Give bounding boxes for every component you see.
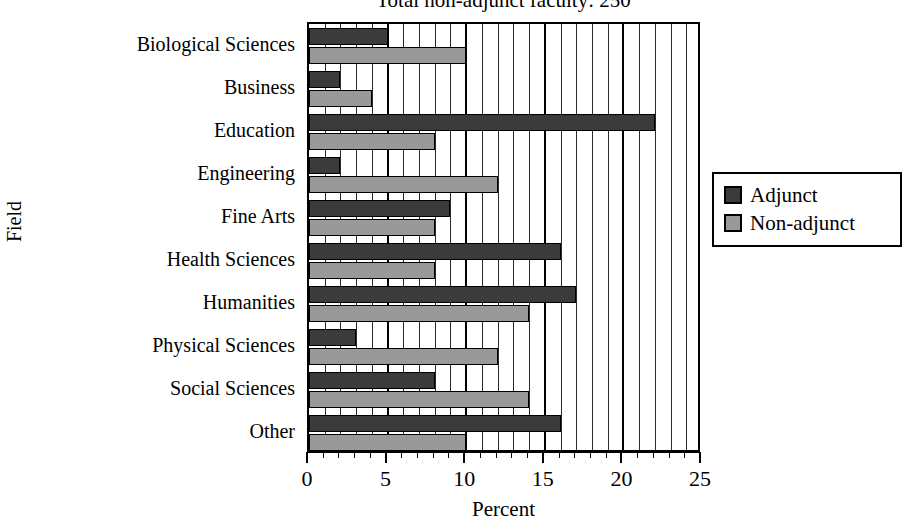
bar-non-adjunct-social-sciences [309,391,529,408]
bar-group [309,24,698,67]
y-tick-label-engineering: Engineering [10,163,295,183]
y-tick-label-other: Other [10,421,295,441]
bar-adjunct-engineering [309,157,340,174]
x-tick [684,452,685,458]
bar-adjunct-fine-arts [309,200,450,217]
x-tick [401,452,402,458]
x-tick [385,452,387,463]
x-tick-label-0: 0 [277,466,337,492]
x-tick [574,452,575,458]
bar-non-adjunct-biological-sciences [309,47,466,64]
legend-label: Non-adjunct [750,212,855,234]
y-tick-label-health-sciences: Health Sciences [10,249,295,269]
legend-item-non-adjunct[interactable]: Non-adjunct [724,209,892,237]
x-tick [542,452,544,463]
y-tick-label-biological-sciences: Biological Sciences [10,34,295,54]
x-tick [370,452,371,458]
x-axis-title: Percent [307,496,700,522]
y-tick-label-business: Business [10,77,295,97]
x-tick [480,452,481,458]
bar-group [309,239,698,282]
x-tick [559,452,560,458]
bar-non-adjunct-physical-sciences [309,348,498,365]
bar-group [309,110,698,153]
x-tick [448,452,449,458]
bar-adjunct-other [309,415,561,432]
x-tick [606,452,607,458]
x-tick-label-20: 20 [591,466,651,492]
x-tick-label-25: 25 [670,466,730,492]
legend-swatch-icon [724,214,742,232]
bar-group [309,325,698,368]
bar-non-adjunct-engineering [309,176,498,193]
x-tick [527,452,528,458]
y-tick-label-physical-sciences: Physical Sciences [10,335,295,355]
x-tick [637,452,638,458]
x-axis-tick-labels: 0510152025 [307,466,700,494]
bar-non-adjunct-humanities [309,305,529,322]
x-tick-label-5: 5 [356,466,416,492]
x-tick [354,452,355,458]
bar-group [309,368,698,411]
plot-area [307,22,700,452]
bar-group [309,282,698,325]
bar-group [309,196,698,239]
x-tick [653,452,654,458]
x-tick [433,452,434,458]
x-tick [511,452,512,458]
chart-title: Total non-adjunct faculty: 250 [307,0,700,13]
legend-swatch-icon [724,186,742,204]
x-tick [463,452,465,463]
bar-adjunct-health-sciences [309,243,561,260]
bar-non-adjunct-health-sciences [309,262,435,279]
bar-adjunct-social-sciences [309,372,435,389]
legend-item-adjunct[interactable]: Adjunct [724,181,892,209]
bar-group [309,153,698,196]
bar-non-adjunct-fine-arts [309,219,435,236]
y-tick-label-fine-arts: Fine Arts [10,206,295,226]
y-tick-label-humanities: Humanities [10,292,295,312]
legend-label: Adjunct [750,184,818,206]
x-tick [338,452,339,458]
x-tick [590,452,591,458]
x-tick [699,452,701,463]
bar-adjunct-business [309,71,340,88]
bar-adjunct-physical-sciences [309,329,356,346]
x-tick [323,452,324,458]
legend: AdjunctNon-adjunct [712,172,902,247]
x-tick [417,452,418,458]
bar-adjunct-education [309,114,655,131]
x-axis-ticks [307,452,700,466]
y-tick-label-education: Education [10,120,295,140]
x-tick [496,452,497,458]
x-tick [620,452,622,463]
bar-non-adjunct-business [309,90,372,107]
x-tick-label-15: 15 [513,466,573,492]
bar-series-container [309,24,698,450]
x-tick-label-10: 10 [434,466,494,492]
y-tick-label-social-sciences: Social Sciences [10,378,295,398]
bar-group [309,67,698,110]
x-tick [306,452,308,463]
bar-non-adjunct-other [309,434,466,451]
bar-adjunct-humanities [309,286,576,303]
y-axis-tick-labels: Biological SciencesBusinessEducationEngi… [10,22,295,452]
bar-non-adjunct-education [309,133,435,150]
bar-adjunct-biological-sciences [309,28,388,45]
x-tick [669,452,670,458]
bar-group [309,411,698,452]
